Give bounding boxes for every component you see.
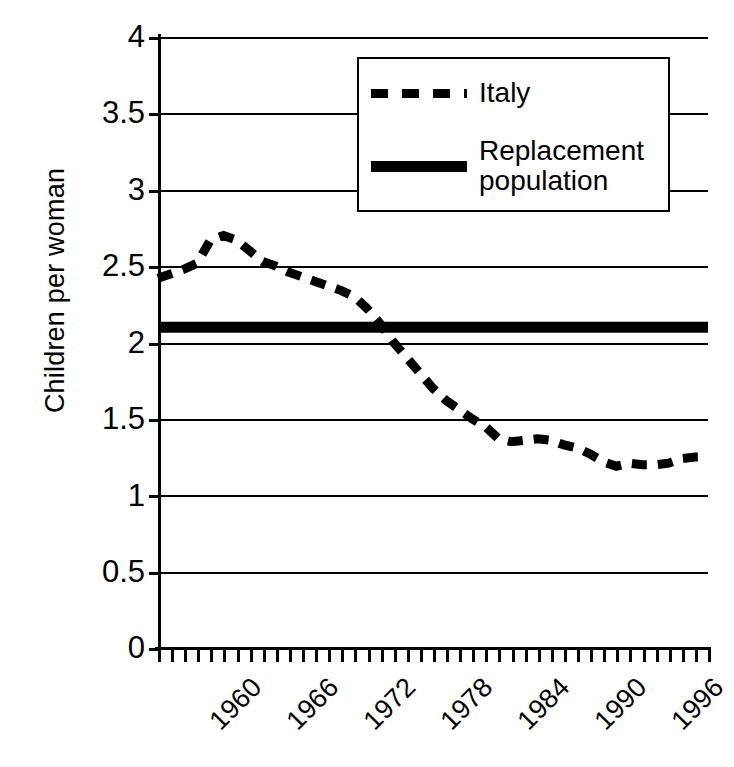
y-tick-mark-3 <box>149 190 161 193</box>
gridline-4 <box>158 37 708 39</box>
x-tick-mark-1989 <box>538 648 541 662</box>
gridline-1 <box>158 495 708 497</box>
x-tick-mark-1969 <box>276 648 279 662</box>
y-tick-mark-2-5 <box>149 266 161 269</box>
y-tick-mark-4 <box>149 37 161 40</box>
y-tick-label-1-5: 1.5 <box>85 403 145 434</box>
x-tick-mark-1984 <box>472 648 475 662</box>
x-tick-mark-1992 <box>577 648 580 662</box>
y-tick-label-4: 4 <box>85 21 145 52</box>
x-tick-mark-1978 <box>394 648 397 662</box>
x-tick-mark-1971 <box>302 648 305 662</box>
y-tick-mark-2 <box>149 343 161 346</box>
x-tick-mark-2001 <box>695 648 698 662</box>
legend-item-italy: Italy <box>359 73 668 113</box>
x-tick-mark-1982 <box>446 648 449 662</box>
x-tick-mark-1965 <box>223 648 226 662</box>
x-tick-mark-1999 <box>669 648 672 662</box>
legend-label-replacement-population: Replacement population <box>479 136 644 195</box>
x-tick-mark-2000 <box>682 648 685 662</box>
x-tick-mark-1986 <box>498 648 501 662</box>
x-tick-mark-1964 <box>210 648 213 662</box>
x-tick-mark-1981 <box>433 648 436 662</box>
x-tick-mark-1983 <box>459 648 462 662</box>
x-tick-mark-1976 <box>368 648 371 662</box>
x-tick-mark-1973 <box>328 648 331 662</box>
x-tick-mark-1996 <box>629 648 632 662</box>
x-tick-mark-1967 <box>250 648 253 662</box>
x-tick-mark-1998 <box>656 648 659 662</box>
x-tick-mark-1974 <box>341 648 344 662</box>
y-tick-label-2-5: 2.5 <box>85 250 145 281</box>
x-tick-mark-1970 <box>289 648 292 662</box>
legend-label-line-2: population <box>479 166 644 196</box>
y-tick-label-0: 0 <box>85 632 145 663</box>
y-tick-label-3-5: 3.5 <box>85 97 145 128</box>
y-axis-line <box>158 34 161 651</box>
x-tick-mark-1987 <box>512 648 515 662</box>
legend-label-line-1: Replacement <box>479 136 644 166</box>
chart-figure: Children per woman 4 3.5 3 2.5 2 1.5 1 0… <box>0 0 734 767</box>
x-tick-label-1984: 1984 <box>512 672 576 736</box>
x-tick-mark-1991 <box>564 648 567 662</box>
gridline-1-5 <box>158 419 708 421</box>
x-tick-mark-2002 <box>708 648 711 662</box>
x-tick-mark-1993 <box>590 648 593 662</box>
y-tick-label-0-5: 0.5 <box>85 556 145 587</box>
x-tick-mark-1980 <box>420 648 423 662</box>
x-tick-label-1972: 1972 <box>358 672 422 736</box>
y-tick-mark-0-5 <box>149 572 161 575</box>
x-tick-label-1960: 1960 <box>204 672 268 736</box>
x-tick-mark-1997 <box>643 648 646 662</box>
x-tick-label-1996: 1996 <box>666 672 730 736</box>
y-tick-label-2: 2 <box>85 327 145 358</box>
x-tick-mark-1979 <box>407 648 410 662</box>
x-tick-mark-1988 <box>525 648 528 662</box>
y-tick-mark-1-5 <box>149 419 161 422</box>
legend-label-italy: Italy <box>479 78 530 108</box>
x-tick-mark-1968 <box>263 648 266 662</box>
gridline-2 <box>158 343 708 345</box>
chart-legend: Italy Replacement population <box>357 57 670 212</box>
x-tick-mark-1960 <box>158 648 161 662</box>
solid-line-key-icon <box>359 151 479 181</box>
y-tick-mark-1 <box>149 495 161 498</box>
gridline-2-5 <box>158 266 708 268</box>
x-tick-label-1966: 1966 <box>281 672 345 736</box>
x-tick-label-1990: 1990 <box>589 672 653 736</box>
dashed-line-key-icon <box>359 78 479 108</box>
x-tick-mark-1972 <box>315 648 318 662</box>
x-tick-mark-1962 <box>184 648 187 662</box>
x-tick-mark-1990 <box>551 648 554 662</box>
y-axis-title: Children per woman <box>40 81 71 501</box>
x-tick-mark-1963 <box>197 648 200 662</box>
x-tick-mark-1994 <box>603 648 606 662</box>
x-tick-mark-1995 <box>616 648 619 662</box>
x-tick-mark-1977 <box>381 648 384 662</box>
gridline-0-5 <box>158 572 708 574</box>
x-tick-label-1978: 1978 <box>435 672 499 736</box>
legend-item-replacement-population: Replacement population <box>359 131 668 201</box>
x-tick-mark-1975 <box>354 648 357 662</box>
y-tick-label-3: 3 <box>85 174 145 205</box>
x-tick-mark-1966 <box>237 648 240 662</box>
x-tick-mark-1985 <box>485 648 488 662</box>
y-tick-label-1: 1 <box>85 480 145 511</box>
y-tick-mark-3-5 <box>149 113 161 116</box>
x-tick-mark-1961 <box>171 648 174 662</box>
